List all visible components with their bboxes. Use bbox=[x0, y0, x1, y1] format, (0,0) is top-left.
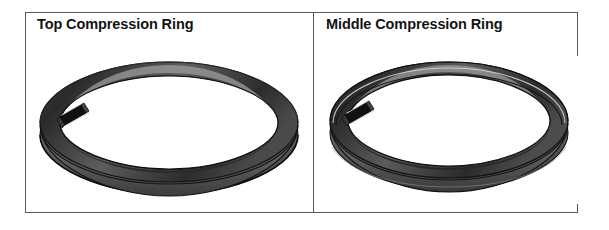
piston-ring-top-icon bbox=[33, 51, 305, 211]
panel-title-top-compression-ring: Top Compression Ring bbox=[37, 14, 193, 34]
panel-top-compression-ring: Top Compression Ring bbox=[25, 12, 313, 213]
panel-middle-compression-ring: Middle Compression Ring bbox=[314, 12, 578, 213]
panel-title-middle-compression-ring: Middle Compression Ring bbox=[326, 14, 503, 34]
piston-ring-middle-icon bbox=[324, 51, 574, 211]
illustration-area-middle-ring bbox=[314, 48, 578, 213]
figure-frame: Top Compression Ring bbox=[25, 12, 578, 213]
illustration-area-top-ring bbox=[25, 48, 313, 213]
